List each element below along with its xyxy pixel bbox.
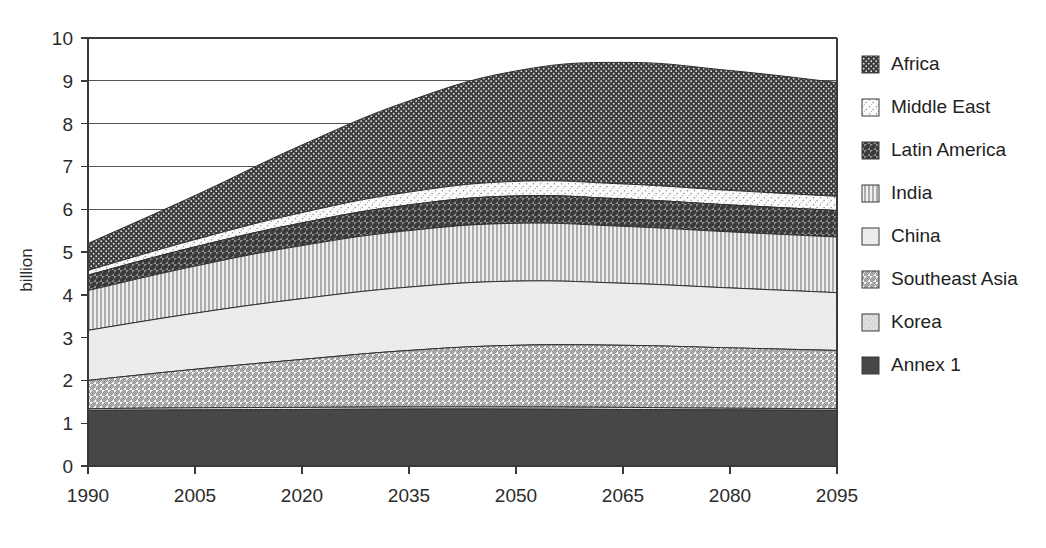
y-tick-label-4: 4 <box>62 285 73 306</box>
x-tick-label-1990: 1990 <box>67 485 109 506</box>
x-tick-label-2050: 2050 <box>495 485 537 506</box>
legend-item-india[interactable]: India <box>862 182 933 203</box>
legend-swatch-icon <box>862 142 879 159</box>
x-tick-label-2005: 2005 <box>174 485 216 506</box>
legend-swatch-icon <box>862 357 879 374</box>
x-tick-label-2020: 2020 <box>281 485 323 506</box>
legend-label: Latin America <box>891 139 1007 160</box>
legend-swatch-icon <box>862 228 879 245</box>
x-tick-label-2065: 2065 <box>602 485 644 506</box>
legend-label: Korea <box>891 311 942 332</box>
legend-swatch-icon <box>862 271 879 288</box>
y-tick-label-1: 1 <box>62 413 73 434</box>
y-tick-label-2: 2 <box>62 370 73 391</box>
y-tick-label-10: 10 <box>52 28 73 49</box>
x-tick-label-2035: 2035 <box>388 485 430 506</box>
y-tick-label-0: 0 <box>62 456 73 477</box>
legend-label: Middle East <box>891 96 991 117</box>
area-series-annex-1 <box>88 409 837 466</box>
legend-label: Southeast Asia <box>891 268 1018 289</box>
legend-label: Africa <box>891 53 940 74</box>
y-tick-label-7: 7 <box>62 156 73 177</box>
legend-item-africa[interactable]: Africa <box>862 53 940 74</box>
legend-swatch-icon <box>862 185 879 202</box>
y-axis-title: billion <box>17 248 36 291</box>
y-tick-label-9: 9 <box>62 71 73 92</box>
legend-label: China <box>891 225 941 246</box>
legend-item-china[interactable]: China <box>862 225 941 246</box>
chart-figure: 012345678910 199020052020203520502065208… <box>0 0 1046 548</box>
legend-swatch-icon <box>862 99 879 116</box>
x-tick-label-2080: 2080 <box>709 485 751 506</box>
legend-item-annex-1[interactable]: Annex 1 <box>862 354 961 375</box>
legend-label: Annex 1 <box>891 354 961 375</box>
x-tick-label-2095: 2095 <box>816 485 858 506</box>
legend-swatch-icon <box>862 56 879 73</box>
legend-item-korea[interactable]: Korea <box>862 311 942 332</box>
legend-label: India <box>891 182 933 203</box>
y-tick-label-8: 8 <box>62 114 73 135</box>
legend-swatch-icon <box>862 314 879 331</box>
y-tick-label-5: 5 <box>62 242 73 263</box>
y-tick-label-3: 3 <box>62 328 73 349</box>
y-tick-label-6: 6 <box>62 199 73 220</box>
